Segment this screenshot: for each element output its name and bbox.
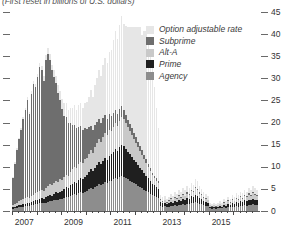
x-tick — [117, 211, 118, 213]
bar-segment — [158, 128, 160, 181]
legend-swatch — [146, 72, 154, 80]
y-tick-left — [3, 189, 10, 190]
y-tick-left — [3, 123, 10, 124]
x-tick — [123, 211, 124, 213]
y-axis-label: 15 — [271, 140, 280, 149]
x-axis-label: 2007 — [15, 217, 34, 227]
x-tick — [184, 211, 185, 215]
y-tick-right — [261, 123, 268, 124]
x-tick — [104, 211, 105, 213]
x-tick — [160, 211, 161, 215]
x-tick — [86, 211, 87, 215]
y-tick-left — [3, 211, 10, 212]
legend-swatch — [146, 60, 154, 68]
x-tick — [37, 211, 38, 215]
y-tick-right — [261, 78, 268, 79]
chart-title: (First reset in billions of U.S. dollars… — [2, 0, 134, 6]
x-tick — [240, 211, 241, 213]
x-tick — [61, 211, 62, 215]
y-tick-left — [3, 145, 10, 146]
x-tick — [67, 211, 68, 213]
legend-item: Prime — [146, 60, 242, 69]
x-tick — [203, 211, 204, 213]
y-tick-left — [3, 167, 10, 168]
x-tick — [190, 211, 191, 213]
y-axis-label: 20 — [271, 118, 280, 127]
y-axis-label: 40 — [271, 30, 280, 39]
x-tick — [24, 211, 25, 213]
x-axis-label: 2009 — [64, 217, 83, 227]
y-tick-left — [3, 34, 10, 35]
x-tick — [98, 211, 99, 213]
y-tick-left — [3, 100, 10, 101]
x-tick — [12, 211, 13, 215]
y-tick-left — [3, 12, 10, 13]
x-tick — [18, 211, 19, 213]
y-tick-right — [261, 34, 268, 35]
x-tick — [141, 211, 142, 213]
y-tick-right — [261, 145, 268, 146]
legend-label: Agency — [159, 72, 187, 81]
x-tick — [178, 211, 179, 213]
legend-swatch — [146, 26, 154, 34]
x-tick — [153, 211, 154, 213]
x-tick — [233, 211, 234, 215]
x-tick — [221, 211, 222, 213]
y-axis-label: 35 — [271, 52, 280, 61]
y-axis-label: 10 — [271, 162, 280, 171]
legend-swatch — [146, 49, 154, 57]
x-tick — [43, 211, 44, 213]
x-tick — [227, 211, 228, 213]
x-tick — [147, 211, 148, 213]
x-tick — [246, 211, 247, 213]
y-tick-right — [261, 189, 268, 190]
y-axis-label: 5 — [271, 184, 276, 193]
y-axis-label: 30 — [271, 74, 280, 83]
y-tick-right — [261, 100, 268, 101]
y-axis-label: 25 — [271, 96, 280, 105]
y-tick-left — [3, 78, 10, 79]
legend-item: Option adjustable rate — [146, 25, 242, 34]
legend-item: Agency — [146, 71, 242, 80]
x-tick — [197, 211, 198, 213]
bar-column — [256, 190, 258, 211]
x-tick — [209, 211, 210, 215]
x-tick — [55, 211, 56, 213]
x-tick — [129, 211, 130, 213]
x-tick — [135, 211, 136, 215]
y-tick-right — [261, 211, 268, 212]
chart-legend: Option adjustable rateSubprimeAlt-APrime… — [146, 25, 242, 80]
chart-figure: (First reset in billions of U.S. dollars… — [0, 0, 301, 242]
legend-item: Alt-A — [146, 48, 242, 57]
x-tick — [110, 211, 111, 215]
x-axis-label: 2011 — [114, 217, 132, 227]
legend-label: Option adjustable rate — [159, 25, 242, 34]
bar-segment — [55, 76, 57, 83]
legend-swatch — [146, 37, 154, 45]
legend-item: Subprime — [146, 37, 242, 46]
y-tick-right — [261, 12, 268, 13]
x-axis-label: 2015 — [212, 217, 231, 227]
x-tick — [172, 211, 173, 213]
y-tick-right — [261, 56, 268, 57]
x-tick — [166, 211, 167, 213]
legend-label: Prime — [159, 60, 181, 69]
x-tick — [92, 211, 93, 213]
y-tick-left — [3, 56, 10, 57]
x-tick — [74, 211, 75, 213]
x-tick — [49, 211, 50, 213]
legend-label: Alt-A — [159, 48, 177, 57]
x-axis-label: 2013 — [162, 217, 181, 227]
legend-label: Subprime — [159, 37, 195, 46]
y-axis-label: 45 — [271, 8, 280, 17]
x-tick — [215, 211, 216, 213]
x-tick — [80, 211, 81, 213]
x-tick — [252, 211, 253, 213]
y-axis-label: 0 — [271, 207, 276, 216]
y-tick-right — [261, 167, 268, 168]
x-tick — [30, 211, 31, 213]
